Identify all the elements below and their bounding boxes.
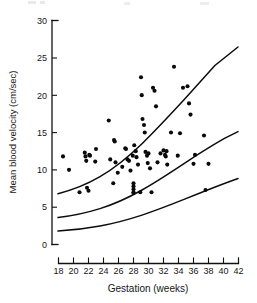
data-point — [86, 189, 90, 193]
data-point — [93, 160, 97, 164]
data-point — [146, 151, 150, 155]
x-tick-label-24: 24 — [98, 266, 108, 276]
data-point — [172, 65, 176, 69]
data-point — [206, 162, 210, 166]
data-point — [187, 101, 191, 105]
data-point — [143, 130, 147, 134]
x-tick-label-34: 34 — [173, 266, 183, 276]
y-tick-label-20: 20 — [37, 91, 47, 101]
data-point — [77, 190, 81, 194]
data-point — [67, 168, 71, 172]
data-point — [148, 166, 152, 170]
x-tick-label-36: 36 — [188, 266, 198, 276]
x-tick-label-26: 26 — [113, 266, 123, 276]
data-point — [164, 149, 168, 153]
data-point — [131, 154, 135, 158]
data-point — [185, 84, 189, 88]
data-point — [120, 165, 124, 169]
data-point — [84, 159, 88, 163]
data-point — [176, 154, 180, 158]
x-axis-title: Gestation (weeks) — [108, 283, 189, 294]
data-point — [146, 161, 150, 165]
data-point — [136, 163, 140, 167]
data-point — [154, 104, 158, 108]
data-point — [127, 159, 131, 163]
data-point — [94, 147, 98, 151]
chart-canvas: 0 5 10 15 20 25 30 Mean blood velocity (… — [0, 0, 257, 303]
data-point — [158, 151, 162, 155]
data-point — [116, 171, 120, 175]
data-point — [83, 154, 87, 158]
data-point — [178, 131, 182, 135]
data-point — [169, 130, 173, 134]
data-point — [202, 133, 206, 137]
scatter-chart: 0 5 10 15 20 25 30 Mean blood velocity (… — [0, 0, 257, 303]
data-point — [108, 157, 112, 161]
y-tick-label-10: 10 — [37, 165, 47, 175]
x-tick-label-22: 22 — [83, 266, 93, 276]
y-axis-title: Mean blood velocity (cm/sec) — [7, 70, 18, 193]
x-tick-label-32: 32 — [158, 266, 168, 276]
data-point — [188, 113, 192, 117]
x-tick-label-38: 38 — [203, 266, 213, 276]
data-point — [181, 86, 185, 90]
y-tick-label-0: 0 — [42, 240, 47, 250]
data-point — [142, 123, 146, 127]
data-point — [138, 190, 142, 194]
data-point — [131, 191, 135, 195]
data-point — [88, 154, 92, 158]
data-point — [165, 163, 169, 167]
data-point — [134, 149, 138, 153]
data-point — [128, 169, 132, 173]
data-point — [113, 160, 117, 164]
x-tick-label-20: 20 — [68, 266, 78, 276]
x-tick-label-18: 18 — [53, 266, 63, 276]
data-point — [149, 190, 153, 194]
data-point — [124, 147, 128, 151]
data-point — [139, 75, 143, 79]
y-tick-label-15: 15 — [37, 128, 47, 138]
data-point — [140, 117, 144, 121]
chart-background — [0, 0, 257, 303]
data-point — [191, 162, 195, 166]
x-tick-label-42: 42 — [233, 266, 243, 276]
data-point — [164, 154, 168, 158]
data-point — [203, 188, 207, 192]
data-point — [107, 119, 111, 123]
data-point — [111, 181, 115, 185]
x-tick-label-28: 28 — [128, 266, 138, 276]
data-point — [152, 89, 156, 93]
data-point — [83, 151, 87, 155]
data-point — [132, 143, 136, 147]
x-tick-label-30: 30 — [143, 266, 153, 276]
data-point — [193, 153, 197, 157]
data-point — [140, 93, 144, 97]
data-point — [61, 154, 65, 158]
data-point — [155, 160, 159, 164]
data-point — [134, 155, 138, 159]
y-tick-label-30: 30 — [37, 16, 47, 26]
y-tick-label-25: 25 — [37, 53, 47, 63]
data-point — [113, 139, 117, 143]
y-tick-label-5: 5 — [42, 202, 47, 212]
x-tick-label-40: 40 — [218, 266, 228, 276]
